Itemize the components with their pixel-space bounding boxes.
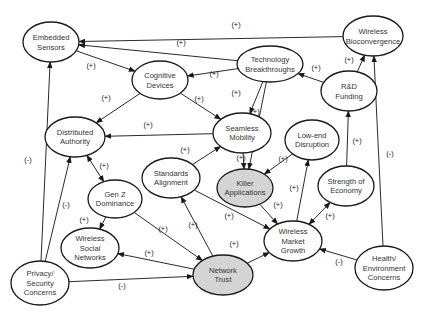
edge-sign-label: (+) [86,61,95,70]
node-label: Environment [363,264,407,273]
node-label: Applications [225,188,266,197]
edge-sign-label: (+) [176,38,185,47]
node-embedded-sensors: EmbeddedSensors [23,22,79,62]
edge-strength_of_economy-to-rd_funding [347,111,349,166]
node-label: Distributed [57,128,93,137]
edge-sign-label: (+) [194,94,203,103]
edge-sign-label: (+) [143,120,152,129]
node-seamless-mobility: SeamlessMobility [213,113,271,153]
edge-standards_alignment-to-seamless_mobility [192,147,220,165]
node-wireless-social-networks: WirelessSocialNetworks [61,228,119,268]
edge-sign-label: (-) [118,281,125,290]
node-label: Sensors [37,43,65,52]
node-wireless-bioconvergence: WirelessBioconvergence [343,16,403,56]
edge-sign-label: (+) [79,215,88,224]
node-technology-breakthroughs: TechnologyBreakthroughs [237,46,303,82]
edge-technology_breakthroughs-to-embedded_sensors [79,45,238,61]
edge-rd_funding-to-technology_breakthroughs [298,74,324,83]
edge-sign-label: (+) [236,153,245,162]
node-label: Networks [74,253,106,262]
node-label: Embedded [33,33,70,42]
edge-sign-label: (+) [278,154,287,163]
edge-sign-label: (+) [229,239,238,248]
edge-rd_funding-to-wireless_bioconvergence [357,55,364,72]
node-network-trust: NetworkTrust [193,255,253,295]
edge-sign-label: (-) [62,200,69,209]
node-label: Gen Z [104,190,125,199]
node-label: Alignment [154,178,189,187]
node-label: Market [281,237,305,246]
node-low-end-disruption: Low-endDisruption [285,120,339,160]
edge-sign-label: (+) [352,136,361,145]
edge-sign-label: (-) [386,149,393,158]
node-label: Concerns [368,273,401,282]
node-label: Growth [281,246,305,255]
node-label: Cognitive [144,71,176,80]
node-label: Wireless [278,227,307,236]
edge-sign-label: (+) [224,211,233,220]
edge-sign-label: (-) [24,155,31,164]
node-label: Mobility [229,133,255,142]
edge-sign-label: (+) [289,183,298,192]
edge-sign-label: (-) [335,257,342,266]
edge-sign-label: (+) [99,161,108,170]
edge-sign-label: (+) [180,145,189,154]
edge-sign-label: (+) [273,200,282,209]
node-label: Concerns [24,288,57,297]
node-distributed-authority: DistributedAuthority [45,117,105,157]
edge-embedded_sensors-to-cognitive_devices [76,51,135,72]
node-label: Devices [146,81,173,90]
node-label: Network [209,266,237,275]
edge-gen_z_dominance-to-wireless_social_networks [100,217,106,229]
node-label: Disruption [295,140,329,149]
node-cognitive-devices: CognitiveDevices [132,61,188,99]
edge-network_trust-to-wireless_social_networks [118,254,195,270]
edge-network_trust-to-wireless_market_growth [247,253,269,264]
node-health-environment-concerns: Health/EnvironmentConcerns [355,246,413,290]
edge-sign-label: (+) [101,93,110,102]
node-label: Social [80,244,101,253]
node-standards-alignment: StandardsAlignment [142,158,200,198]
node-gen-z-dominance: Gen ZDominance [88,180,142,218]
node-wireless-market-growth: WirelessMarketGrowth [264,221,322,261]
node-privacy-security-concerns: Privacy/SecurityConcerns [11,261,69,305]
node-label: R&D [341,82,358,91]
edge-seamless_mobility-to-distributed_authority [105,134,213,137]
node-label: Security [26,279,54,288]
edge-privacy_security_concerns-to-embedded_sensors [41,62,50,261]
node-label: Strength of [327,177,365,186]
edge-sign-label: (+) [209,69,218,78]
node-label: Authority [60,137,90,146]
node-label: Dominance [96,199,134,208]
node-label: Economy [330,186,362,195]
edge-sign-label: (+) [344,55,353,64]
edge-sign-label: (+) [231,88,240,97]
node-label: Health/ [372,254,397,263]
node-rd-funding: R&DFunding [321,71,377,111]
node-label: Funding [335,92,362,101]
edge-sign-label: (+) [325,211,334,220]
node-label: Bioconvergence [346,37,400,46]
node-label: Wireless [358,27,387,36]
edge-sign-label: (+) [311,63,320,72]
node-strength-of-economy: Strength ofEconomy [318,166,374,206]
edge-sign-label: (+) [144,248,153,257]
edge-wireless_bioconvergence-to-embedded_sensors [79,37,343,42]
node-label: Breakthroughs [245,65,295,74]
node-label: Low-end [297,131,326,140]
edge-sign-label: (+) [188,220,197,229]
causal-loop-diagram: (+)(+)(+)(+)(+)(+)(+)(+)(+)(+)(+)(+)(+)(… [0,0,426,313]
node-label: Standards [154,169,189,178]
node-killer-applications: KillerApplications [217,169,273,207]
edge-sign-label: (+) [231,20,240,29]
node-label: Killer [237,179,254,188]
node-label: Trust [214,275,232,284]
node-label: Privacy/ [26,269,54,278]
edge-sign-label: (+) [158,224,167,233]
edge-privacy_security_concerns-to-network_trust [69,276,193,281]
node-label: Technology [251,55,290,64]
node-label: Seamless [225,124,259,133]
node-label: Wireless [75,234,104,243]
